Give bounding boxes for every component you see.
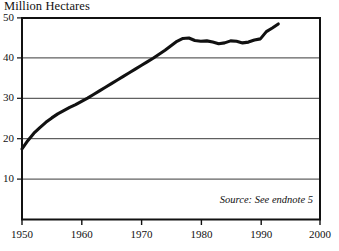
x-axis-label-1970: 1970 <box>125 228 159 240</box>
y-axis-label-30: 30 <box>0 91 14 103</box>
x-axis-label-1990: 1990 <box>244 228 278 240</box>
y-axis-label-50: 50 <box>0 11 14 23</box>
plot-area <box>0 0 339 251</box>
y-axis-label-10: 10 <box>0 172 14 184</box>
y-axis-label-40: 40 <box>0 51 14 63</box>
chart-figure: Million Hectares <box>0 0 339 251</box>
source-note: Source: See endnote 5 <box>220 194 313 205</box>
x-axis-label-1960: 1960 <box>65 228 99 240</box>
x-axis-label-1980: 1980 <box>184 228 218 240</box>
x-axis-label-1950: 1950 <box>5 228 39 240</box>
x-axis-label-2000: 2000 <box>303 228 337 240</box>
y-axis-label-20: 20 <box>0 132 14 144</box>
plot-background <box>22 18 321 220</box>
